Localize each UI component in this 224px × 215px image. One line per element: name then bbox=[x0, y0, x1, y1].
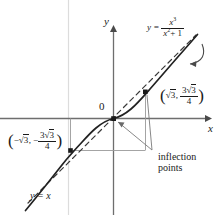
y-axis-arrowhead bbox=[110, 25, 117, 32]
inflection-line-2: points bbox=[158, 163, 196, 174]
curve-equation-label: y = x3 x2+ 1 bbox=[147, 18, 184, 38]
equation-numerator: x3 bbox=[167, 18, 178, 27]
curve-cubic-over-quadratic bbox=[26, 35, 198, 211]
leader-to-right-point bbox=[147, 95, 152, 150]
y-denominator-right: 4 bbox=[185, 97, 194, 106]
inflection-line-1: inflection bbox=[158, 152, 196, 163]
comma-left: , bbox=[29, 136, 31, 145]
y-fraction-right: 3√3 4 bbox=[180, 86, 198, 106]
equation-denominator: x2+ 1 bbox=[161, 29, 184, 38]
y-denominator-left: 4 bbox=[43, 142, 52, 151]
graph-canvas bbox=[0, 0, 224, 215]
y-fraction-left: 3√3 4 bbox=[38, 131, 56, 151]
equation-fraction: x3 x2+ 1 bbox=[161, 18, 184, 38]
sqrt-3-right: √3 bbox=[166, 91, 176, 100]
x-axis-arrowhead bbox=[205, 115, 212, 122]
leader-to-origin bbox=[118, 122, 152, 150]
x-axis-label: x bbox=[208, 123, 213, 135]
paren-close-right: ) bbox=[198, 89, 204, 103]
equation-callout-arrow bbox=[190, 44, 204, 64]
graph-figure: y x 0 y = x3 x2+ 1 ( √3 , 3√3 4 ) ( − √3… bbox=[0, 0, 224, 215]
equation-lhs: y = bbox=[147, 23, 159, 32]
inflection-points-annotation: inflection points bbox=[158, 152, 196, 173]
y-numerator-left: 3√3 bbox=[38, 131, 56, 140]
y-numerator-right: 3√3 bbox=[180, 86, 198, 95]
origin-label: 0 bbox=[99, 101, 105, 113]
point-label-left: ( − √3 , − 3√3 4 ) bbox=[8, 131, 62, 151]
point-label-right: ( √3 , 3√3 4 ) bbox=[160, 86, 204, 106]
equation-callout-arrowhead bbox=[190, 61, 197, 67]
comma-right: , bbox=[176, 91, 178, 100]
point-marker-origin bbox=[111, 116, 116, 121]
y-axis-label: y bbox=[104, 16, 109, 28]
paren-close-left: ) bbox=[56, 134, 62, 148]
asymptote-equation-label: y = x bbox=[30, 191, 51, 202]
sqrt-3-left: √3 bbox=[19, 136, 29, 145]
point-marker-left bbox=[68, 148, 73, 153]
point-marker-right bbox=[143, 90, 148, 95]
